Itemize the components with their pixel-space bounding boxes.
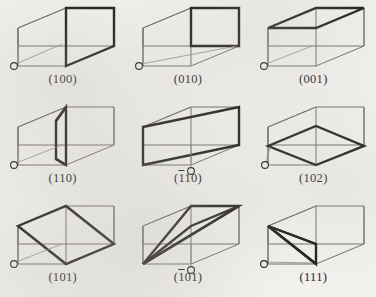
origin-circle [10,261,17,268]
index-rest: 01) [185,270,203,284]
origin-circle [261,63,268,70]
unit-cell-svg-100 [4,0,122,78]
origin-circle [136,63,143,70]
diagram-cell-010: (010) [125,0,250,99]
unit-cell-svg-1bar01 [129,198,247,276]
unit-cell-svg-110 [4,99,122,177]
origin-leader-line [266,262,312,263]
plane-label-001: (001) [299,72,328,87]
plane-label-110: (110) [49,171,77,186]
origin-circle [10,63,17,70]
diagram-cell-110: (110) [0,99,125,198]
origin-circle [10,162,17,169]
unit-cell-svg-111 [254,198,372,276]
plane-label-1bar01: (101) [174,270,203,285]
origin-leader-line [16,244,62,262]
highlighted-plane-010 [191,8,239,46]
diagram-cell-100: (100) [0,0,125,99]
unit-cell-svg-001 [254,0,372,78]
plane-label-111: (111) [300,270,328,285]
diagram-cell-102: (102) [251,99,376,198]
diagram-cell-1bar01: (101) [125,198,250,297]
unit-cell-svg-1bar10 [129,99,247,177]
plane-label-101: (101) [48,270,77,285]
diagram-cell-111: (111) [251,198,376,297]
index-rest: 10) [184,171,202,185]
highlighted-plane-110 [56,107,66,165]
unit-cell-edges [268,107,364,165]
diagram-cell-1bar10: (110) [125,99,250,198]
plane-label-010: (010) [174,72,203,87]
unit-cell-svg-101 [4,198,122,276]
origin-leader-line [16,44,62,64]
plane-label-1bar10: (110) [174,171,202,186]
unit-cell-svg-102 [254,99,372,177]
origin-leader-line [141,46,237,64]
origin-circle [262,162,269,169]
highlighted-plane-100 [66,8,114,66]
plane-label-100: (100) [48,72,77,87]
origin-circle [261,261,268,268]
unit-cell-svg-010 [129,0,247,78]
highlighted-plane-111 [268,226,316,264]
plane-label-102: (102) [299,171,328,186]
plane-diagram-grid: (100) (010) [0,0,376,297]
diagram-cell-001: (001) [251,0,376,99]
diagram-cell-101: (101) [0,198,125,297]
origin-leader-line [266,46,312,64]
